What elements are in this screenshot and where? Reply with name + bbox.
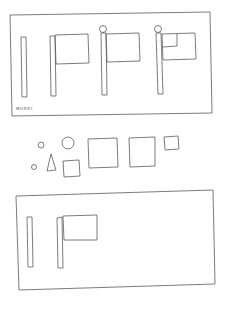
worksheet-page: MODEL — [0, 0, 226, 310]
large-square-piece — [88, 138, 118, 168]
tiny-circle-piece — [32, 165, 37, 170]
medium-circle-piece — [62, 137, 74, 149]
response-step-pole-flag — [57, 215, 97, 268]
triangle-piece — [47, 154, 56, 171]
knob-icon — [100, 26, 107, 33]
flag-icon — [55, 34, 89, 64]
loose-pieces — [32, 136, 180, 177]
response-panel — [16, 190, 215, 290]
model-step-pole-flag — [50, 34, 89, 96]
model-label: MODEL — [16, 106, 33, 111]
model-step-pole-flag-knob — [100, 26, 141, 96]
worksheet-drawing — [0, 0, 226, 310]
model-step-pole-flag-knob-canton — [155, 26, 197, 95]
flag-icon — [106, 33, 140, 62]
response-step-pole — [27, 217, 33, 267]
canton-square-icon — [163, 34, 177, 47]
pole-icon — [27, 217, 33, 267]
model-step-pole — [21, 37, 27, 97]
pole-icon — [21, 37, 27, 97]
small-square-piece — [63, 160, 80, 177]
small-circle-piece — [38, 142, 44, 148]
model-frame — [10, 12, 212, 116]
flag-icon — [63, 215, 97, 240]
knob-icon — [155, 26, 162, 33]
large-square-piece — [129, 137, 155, 167]
small-square-piece — [164, 136, 179, 150]
pole-icon — [57, 217, 63, 268]
model-panel — [10, 12, 212, 116]
response-frame — [16, 190, 215, 290]
